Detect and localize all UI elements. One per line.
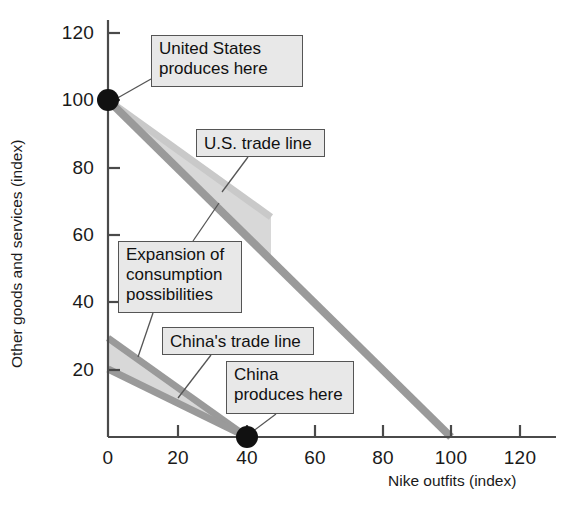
callout-expansion-of-consumption-possibilities: Expansion of consumption possibilities bbox=[118, 241, 242, 313]
y-axis-title: Other goods and services (index) bbox=[8, 140, 26, 368]
x-tick-label-0: 0 bbox=[83, 447, 133, 469]
china-produces-point bbox=[236, 426, 258, 448]
leader-expansion-us bbox=[193, 203, 219, 241]
callout-china-produces-here: China produces here bbox=[226, 361, 354, 414]
callout-chinas-trade-line: China's trade line bbox=[162, 327, 314, 355]
y-tick-label-100: 100 bbox=[24, 89, 94, 111]
x-tick-label-20: 20 bbox=[153, 447, 203, 469]
callout-us-trade-line: U.S. trade line bbox=[196, 129, 325, 157]
y-tick-label-80: 80 bbox=[24, 157, 94, 179]
leader-expansion-china bbox=[138, 313, 153, 357]
y-tick-label-40: 40 bbox=[24, 291, 94, 313]
economics-trade-chart: 120 100 80 60 40 20 0 20 40 60 80 100 12… bbox=[0, 0, 562, 505]
y-tick-label-60: 60 bbox=[24, 224, 94, 246]
leader-china-trade-line bbox=[178, 355, 211, 398]
x-tick-label-40: 40 bbox=[222, 447, 272, 469]
x-tick-label-80: 80 bbox=[358, 447, 408, 469]
x-tick-label-120: 120 bbox=[495, 447, 545, 469]
leader-us-trade-line bbox=[222, 157, 248, 192]
x-tick-label-100: 100 bbox=[426, 447, 476, 469]
callout-us-produces-here: United States produces here bbox=[151, 35, 303, 87]
x-tick-label-60: 60 bbox=[290, 447, 340, 469]
leader-us-produces bbox=[114, 79, 151, 100]
y-axis-ticks bbox=[108, 33, 120, 370]
y-tick-label-120: 120 bbox=[24, 22, 94, 44]
y-tick-label-20: 20 bbox=[24, 359, 94, 381]
x-axis-title: Nike outfits (index) bbox=[388, 472, 516, 490]
leader-china-produces bbox=[252, 414, 276, 432]
us-produces-point bbox=[97, 89, 119, 111]
